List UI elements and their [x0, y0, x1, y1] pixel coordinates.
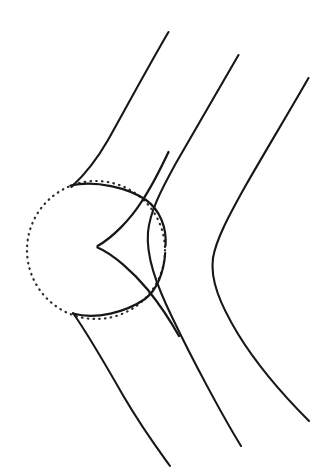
ray-1-incoming: [72, 32, 169, 187]
ray-2-middle: [148, 55, 241, 446]
caustic-lower-branch: [98, 248, 180, 337]
ray-1-outgoing: [73, 313, 170, 466]
figure-canvas: [0, 0, 320, 474]
geometry-diagram: [0, 0, 320, 474]
ray-3-right: [212, 78, 309, 421]
